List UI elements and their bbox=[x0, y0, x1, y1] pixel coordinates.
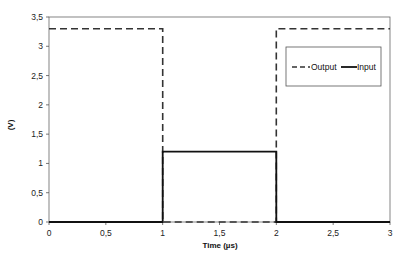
legend-input-label: Input bbox=[357, 62, 377, 72]
y-axis-label: (V) bbox=[6, 119, 15, 130]
legend: Output Input bbox=[286, 47, 381, 86]
y-tick-label: 1 bbox=[38, 158, 43, 168]
y-tick-label: 0,5 bbox=[31, 188, 43, 198]
x-tick-label: 0 bbox=[47, 228, 52, 238]
legend-output-label: Output bbox=[311, 62, 337, 72]
x-axis: 00,511,522,53 bbox=[47, 222, 393, 238]
x-tick-label: 3 bbox=[388, 228, 393, 238]
x-tick-label: 0,5 bbox=[100, 228, 112, 238]
y-tick-label: 2 bbox=[38, 100, 43, 110]
y-tick-label: 2,5 bbox=[31, 71, 43, 81]
series-input-line bbox=[49, 152, 390, 222]
y-tick-label: 1,5 bbox=[31, 129, 43, 139]
x-tick-label: 1 bbox=[160, 228, 165, 238]
waveform-chart: 00,511,522,533,5 00,511,522,53 (V) Time … bbox=[0, 0, 414, 269]
y-tick-label: 3 bbox=[38, 41, 43, 51]
x-tick-label: 1,5 bbox=[214, 228, 226, 238]
x-tick-label: 2 bbox=[274, 228, 279, 238]
x-tick-label: 2,5 bbox=[327, 228, 339, 238]
y-tick-label: 0 bbox=[38, 217, 43, 227]
y-axis: 00,511,522,533,5 bbox=[31, 12, 49, 227]
x-axis-label: Time (µs) bbox=[202, 241, 237, 250]
y-tick-label: 3,5 bbox=[31, 12, 43, 22]
